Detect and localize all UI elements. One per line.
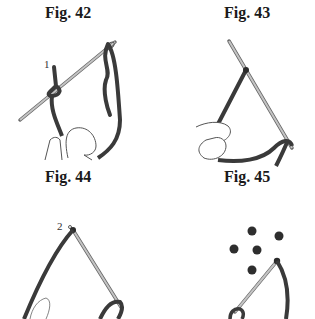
fig-44-drawing	[24, 226, 122, 319]
fig-42-step-label: 1	[44, 58, 50, 70]
illustration-canvas	[0, 0, 315, 319]
fig-42-caption: Fig. 42	[45, 4, 91, 22]
fig-44-caption: Fig. 44	[45, 168, 91, 186]
fig-43-drawing	[196, 41, 292, 166]
fig-42-drawing	[20, 41, 120, 160]
fig-43-caption: Fig. 43	[224, 4, 270, 22]
fig-45-drawing	[230, 227, 288, 319]
fig-44-step-label: 2	[57, 220, 63, 232]
fig-45-caption: Fig. 45	[224, 168, 270, 186]
